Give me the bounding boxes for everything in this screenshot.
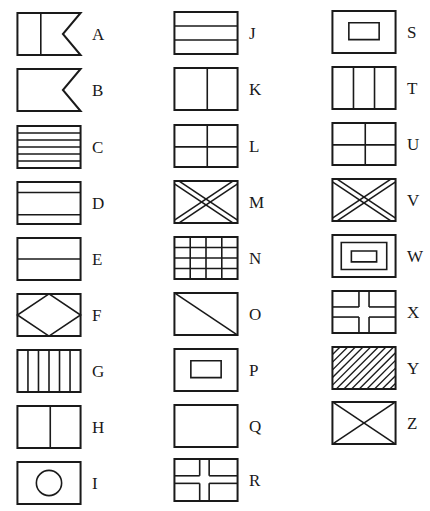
flag-n: N bbox=[173, 236, 269, 280]
flag-letter-label: V bbox=[407, 192, 419, 209]
flag-letter-label: O bbox=[249, 306, 261, 323]
flag-letter-label: Q bbox=[249, 418, 261, 435]
flag-saltire-double-icon bbox=[331, 178, 397, 222]
flag-letter-label: D bbox=[92, 195, 104, 212]
flag-g: G bbox=[16, 349, 112, 393]
flag-letter-label: J bbox=[249, 25, 256, 42]
flag-letter-label: P bbox=[249, 362, 258, 379]
flag-s: S bbox=[331, 10, 427, 54]
flag-vertical-halves-icon bbox=[173, 67, 239, 111]
flag-i: I bbox=[16, 461, 112, 505]
flag-d: D bbox=[16, 181, 112, 225]
flag-quarters-icon bbox=[173, 124, 239, 168]
flag-letter-label: G bbox=[92, 363, 104, 380]
flag-t: T bbox=[331, 66, 427, 110]
flag-letter-label: U bbox=[407, 136, 419, 153]
flag-plain-icon bbox=[173, 404, 239, 448]
flag-vertical-thirds-icon bbox=[331, 66, 397, 110]
flag-letter-label: S bbox=[407, 24, 416, 41]
flag-nested-rectangles-icon bbox=[331, 234, 397, 278]
flag-vertical-halves-icon bbox=[16, 405, 82, 449]
flag-k: K bbox=[173, 67, 269, 111]
flag-inner-rectangle-icon bbox=[331, 10, 397, 54]
flag-q: Q bbox=[173, 404, 269, 448]
flag-f: F bbox=[16, 293, 112, 337]
flag-z: Z bbox=[331, 401, 427, 445]
flag-letter-label: I bbox=[92, 475, 98, 492]
flag-letter-label: X bbox=[407, 304, 419, 321]
flag-m: M bbox=[173, 180, 269, 224]
flag-letter-label: R bbox=[249, 472, 260, 489]
flag-horizontal-stripes-5-icon bbox=[16, 125, 82, 169]
flag-letter-label: H bbox=[92, 419, 104, 436]
flag-u: U bbox=[331, 122, 427, 166]
flag-letter-label: C bbox=[92, 139, 103, 156]
flag-c: C bbox=[16, 125, 112, 169]
flag-e: E bbox=[16, 237, 112, 281]
flag-letter-label: N bbox=[249, 250, 261, 267]
flag-h: H bbox=[16, 405, 112, 449]
flag-j: J bbox=[173, 11, 269, 55]
flag-cross-offset-double-icon bbox=[173, 458, 239, 502]
flag-letter-label: T bbox=[407, 80, 417, 97]
flag-a: A bbox=[16, 12, 112, 56]
flag-letter-label: M bbox=[249, 194, 264, 211]
flag-horizontal-halves-icon bbox=[16, 237, 82, 281]
flag-v: V bbox=[331, 178, 427, 222]
flag-horizontal-thirds-icon bbox=[173, 11, 239, 55]
flag-letter-label: Y bbox=[407, 360, 419, 377]
flag-letter-label: F bbox=[92, 307, 101, 324]
flag-horizontal-bands-top-bottom-icon bbox=[16, 181, 82, 225]
flag-p: P bbox=[173, 348, 269, 392]
flag-letter-label: Z bbox=[407, 415, 417, 432]
flag-cross-double-icon bbox=[331, 290, 397, 334]
flag-w: W bbox=[331, 234, 427, 278]
flag-swallowtail-vertical-line-icon bbox=[16, 12, 82, 56]
flag-r: R bbox=[173, 458, 269, 502]
flag-swallowtail-plain-icon bbox=[16, 68, 82, 112]
flag-x: X bbox=[331, 290, 427, 334]
flag-letter-label: W bbox=[407, 248, 423, 265]
flag-letter-label: L bbox=[249, 138, 259, 155]
flag-saltire-single-icon bbox=[331, 401, 397, 445]
flag-letter-label: E bbox=[92, 251, 102, 268]
flag-l: L bbox=[173, 124, 269, 168]
flag-y: Y bbox=[331, 346, 427, 390]
flag-vertical-stripes-6-icon bbox=[16, 349, 82, 393]
flag-diamond-icon bbox=[16, 293, 82, 337]
flag-letter-label: K bbox=[249, 81, 261, 98]
flag-o: O bbox=[173, 292, 269, 336]
flag-checker-grid-4x4-icon bbox=[173, 236, 239, 280]
flag-inner-rectangle-icon bbox=[173, 348, 239, 392]
flag-letter-label: A bbox=[92, 26, 104, 43]
flag-quarters-icon bbox=[331, 122, 397, 166]
flag-saltire-double-icon bbox=[173, 180, 239, 224]
flag-b: B bbox=[16, 68, 112, 112]
flag-circle-icon bbox=[16, 461, 82, 505]
flag-diagonal-hatch-icon bbox=[331, 346, 397, 390]
flag-diagonal-split-icon bbox=[173, 292, 239, 336]
flag-letter-label: B bbox=[92, 82, 103, 99]
